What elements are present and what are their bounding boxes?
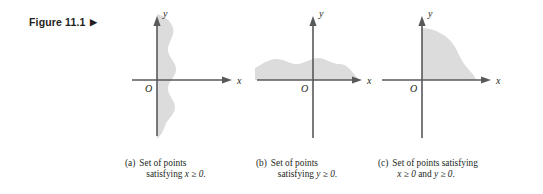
caption-text-b: Set of points satisfying y ≥ 0. xyxy=(271,158,337,181)
figure-panel-c: y x O (c) Set of points satisfying x ≥ 0… xyxy=(378,8,523,188)
caption-line2-suffix-b: . xyxy=(335,169,337,179)
y-axis-label-b: y xyxy=(318,8,324,19)
caption-line2-math1-c: x ≥ 0 xyxy=(397,169,416,179)
x-axis-arrowhead-b xyxy=(352,76,362,83)
caption-text-c: Set of points satisfying x ≥ 0 and y ≥ 0… xyxy=(392,158,477,181)
caption-c: (c) Set of points satisfying x ≥ 0 and y… xyxy=(378,158,478,181)
y-axis-arrowhead-c xyxy=(418,16,425,26)
x-axis-arrowhead-a xyxy=(222,76,232,83)
caption-b: (b) Set of points satisfying y ≥ 0. xyxy=(256,158,337,181)
figure-label: Figure 11.1 ▶ xyxy=(29,16,97,28)
caption-line2-math-b: y ≥ 0 xyxy=(316,169,335,179)
caption-line2-suffix-c: . xyxy=(452,169,454,179)
caption-line2-prefix-a: satisfying xyxy=(146,169,184,179)
origin-label-b: O xyxy=(301,83,308,94)
shaded-region-c xyxy=(422,28,476,80)
plot-c: y x O xyxy=(378,8,523,140)
y-axis-label-a: y xyxy=(162,8,168,19)
plot-a: y x O xyxy=(125,8,270,140)
y-axis-label-c: y xyxy=(427,8,433,19)
origin-label-c: O xyxy=(410,83,417,94)
y-axis-arrowhead-b xyxy=(309,16,316,26)
caption-line2-math-a: x ≥ 0 xyxy=(185,169,204,179)
caption-line2-suffix-a: . xyxy=(203,169,205,179)
origin-label-a: O xyxy=(145,83,152,94)
caption-line2-math2-c: y ≥ 0 xyxy=(434,169,453,179)
caption-line1-a: Set of points xyxy=(139,158,186,168)
shaded-region-a xyxy=(157,14,176,139)
caption-line1-b: Set of points xyxy=(271,158,318,168)
caption-a: (a) Set of points satisfying x ≥ 0. xyxy=(125,158,206,181)
right-triangle-icon: ▶ xyxy=(90,17,97,26)
caption-tag-c: (c) xyxy=(378,158,388,169)
figure-label-text: Figure 11.1 xyxy=(29,16,86,28)
x-axis-label-c: x xyxy=(495,75,501,86)
x-axis-arrowhead-c xyxy=(481,76,491,83)
figure-panel-a: y x O (a) Set of points satisfying x ≥ 0… xyxy=(125,8,270,188)
caption-line1-c: Set of points satisfying xyxy=(392,158,477,168)
shaded-region-b xyxy=(255,58,358,80)
x-axis-label-a: x xyxy=(236,75,242,86)
x-axis-label-b: x xyxy=(366,75,372,86)
caption-text-a: Set of points satisfying x ≥ 0. xyxy=(139,158,205,181)
caption-tag-a: (a) xyxy=(125,158,135,169)
caption-line2-joiner-c: and xyxy=(416,169,434,179)
caption-tag-b: (b) xyxy=(256,158,267,169)
caption-line2-prefix-b: satisfying xyxy=(278,169,316,179)
